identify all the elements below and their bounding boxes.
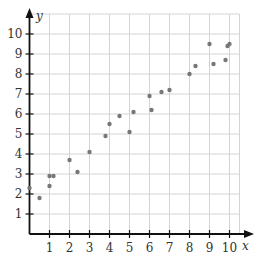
x-tick-label: 10: [222, 241, 237, 255]
data-point: [117, 114, 121, 118]
data-point: [167, 88, 171, 92]
data-point: [87, 150, 91, 154]
ticks: 1234567891012345678910: [7, 27, 237, 255]
x-axis-label: x: [242, 239, 249, 253]
x-tick-label: 3: [86, 241, 94, 255]
x-tick-label: 9: [206, 241, 214, 255]
y-tick-label: 4: [15, 147, 23, 161]
data-point: [149, 108, 153, 112]
y-tick-label: 10: [7, 27, 22, 41]
axes: x y: [26, 8, 255, 253]
data-point: [187, 72, 191, 76]
data-point: [75, 170, 79, 174]
y-axis-arrow-icon: [26, 8, 34, 18]
data-point: [193, 64, 197, 68]
data-point: [207, 42, 211, 46]
data-point: [147, 94, 151, 98]
data-point: [103, 134, 107, 138]
y-tick-label: 3: [15, 167, 23, 181]
x-axis-arrow-icon: [244, 230, 254, 238]
data-point: [27, 186, 31, 190]
y-tick-label: 1: [15, 207, 23, 221]
x-tick-label: 4: [106, 241, 114, 255]
x-tick-label: 6: [146, 241, 154, 255]
data-point: [37, 196, 41, 200]
grid-lines: [30, 14, 240, 234]
y-tick-label: 5: [15, 127, 23, 141]
y-tick-label: 7: [15, 87, 23, 101]
data-point: [127, 130, 131, 134]
data-point: [47, 174, 51, 178]
data-point: [67, 158, 71, 162]
data-point: [51, 174, 55, 178]
y-tick-label: 9: [15, 47, 23, 61]
scatter-plot: x y 1234567891012345678910: [0, 0, 266, 261]
y-tick-label: 2: [15, 187, 23, 201]
x-tick-label: 5: [126, 241, 134, 255]
data-point: [211, 62, 215, 66]
x-tick-label: 2: [66, 241, 74, 255]
data-point: [131, 110, 135, 114]
x-tick-label: 1: [46, 241, 54, 255]
data-point: [107, 122, 111, 126]
data-point: [47, 184, 51, 188]
data-point: [227, 42, 231, 46]
y-axis-label: y: [35, 9, 43, 23]
data-point: [223, 58, 227, 62]
x-tick-label: 7: [166, 241, 174, 255]
y-tick-label: 8: [15, 67, 23, 81]
x-tick-label: 8: [186, 241, 194, 255]
data-point: [159, 90, 163, 94]
y-tick-label: 6: [15, 107, 23, 121]
